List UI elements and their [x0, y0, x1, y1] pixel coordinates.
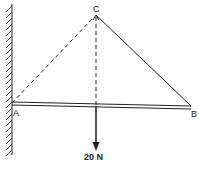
label-b: B [191, 109, 197, 119]
load-label: 20 N [84, 152, 103, 162]
wall [6, 4, 12, 156]
label-a: A [13, 108, 19, 118]
diagram-canvas: C A B 20 N [0, 0, 199, 174]
diagram-svg [0, 0, 199, 174]
load-arrow [93, 106, 100, 151]
dashed-ac [12, 17, 94, 103]
string-cb [96, 15, 191, 106]
beam-ab [12, 102, 191, 109]
label-c: C [93, 4, 100, 14]
